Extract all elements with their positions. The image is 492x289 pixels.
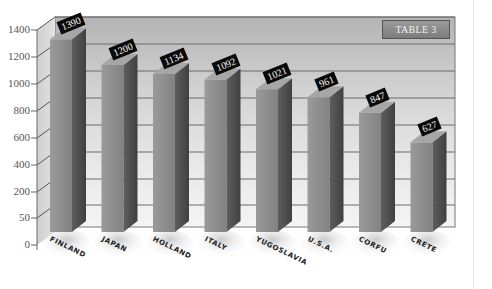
bar-crete [411,131,447,232]
bar-corfu [359,102,395,232]
y-tick-label: 0 [2,238,30,250]
bar-italy [205,69,241,232]
y-tick-label: 600 [2,131,30,143]
bar-holland [153,63,189,232]
y-tick-label: 1000 [2,77,30,89]
bar-japan [102,54,138,232]
y-tick-label: 1200 [2,50,30,62]
bar-yugoslavia [256,78,292,232]
chart-title-badge: TABLE 3 [382,20,450,39]
y-tick-label: 200 [2,185,30,197]
y-axis [31,30,37,250]
y-tick-label: 400 [2,158,30,170]
y-tick-label: 50 [2,211,30,223]
bar-usa [308,86,344,232]
page-divider [473,0,474,289]
y-tick-label: 800 [2,104,30,116]
chart-area: 050200400600800100012001400 TABLE 3 1390… [0,0,492,289]
y-tick-label: 1400 [2,23,30,35]
bar-finland [50,28,86,232]
